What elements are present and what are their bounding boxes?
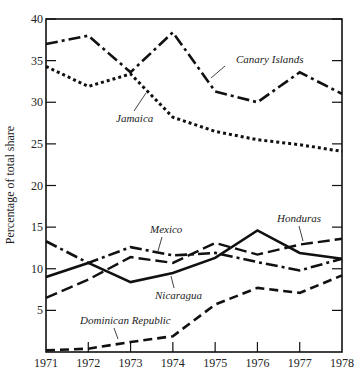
svg-text:Jamaica: Jamaica	[116, 112, 154, 124]
svg-text:Dominican Republic: Dominican Republic	[79, 314, 171, 326]
svg-text:Nicaragua: Nicaragua	[154, 289, 203, 301]
annotation-dominican-republic: Dominican Republic	[79, 314, 171, 339]
x-tick-label: 1978	[330, 356, 354, 370]
x-tick-label: 1974	[161, 356, 185, 370]
y-axis-title: Percentage of total share	[3, 126, 17, 244]
y-tick-label: 15	[31, 220, 43, 234]
x-tick-label: 1975	[203, 356, 227, 370]
x-tick-label: 1972	[76, 356, 100, 370]
y-tick-label: 25	[31, 137, 43, 151]
series-line-jamaica	[46, 66, 342, 151]
series-lines	[46, 32, 342, 350]
annotation-honduras: Honduras	[276, 212, 321, 241]
y-tick-label: 35	[31, 54, 43, 68]
y-tick-label: 20	[31, 179, 43, 193]
x-tick-label: 1977	[288, 356, 312, 370]
x-tick-label: 1971	[34, 356, 58, 370]
annotation-mexico: Mexico	[149, 223, 183, 251]
svg-text:Canary Islands: Canary Islands	[236, 53, 304, 65]
svg-text:Honduras: Honduras	[276, 212, 321, 224]
series-line-dominican-republic	[46, 275, 342, 350]
annotation-jamaica: Jamaica	[116, 93, 154, 124]
annotation-canary-islands: Canary Islands	[211, 53, 304, 78]
series-line-nicaragua	[46, 230, 342, 282]
annotation-nicaragua: Nicaragua	[154, 276, 203, 301]
series-line-canary-islands	[46, 32, 342, 102]
x-tick-label: 1973	[119, 356, 143, 370]
x-axis-ticks: 19711972197319741975197619771978	[34, 342, 354, 370]
line-chart: 510152025303540 197119721973197419751976…	[0, 0, 363, 383]
y-tick-label: 30	[31, 95, 43, 109]
plot-frame	[46, 19, 342, 352]
y-tick-label: 40	[31, 12, 43, 26]
x-tick-label: 1976	[245, 356, 269, 370]
svg-text:Mexico: Mexico	[149, 223, 183, 235]
y-tick-label: 10	[31, 262, 43, 276]
y-tick-label: 5	[37, 303, 43, 317]
